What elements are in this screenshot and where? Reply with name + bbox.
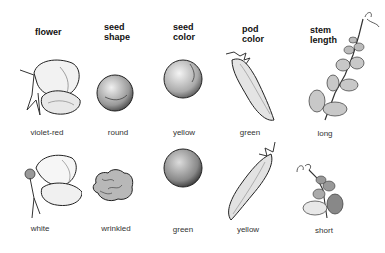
header-flower: flower (35, 27, 62, 37)
seed-round-illustration (95, 73, 135, 113)
stem-short-illustration (295, 160, 350, 220)
header-line: seed (173, 22, 195, 32)
header-line: color (242, 34, 264, 44)
flower-white-illustration (12, 150, 82, 220)
seed-wrinkled-illustration (90, 165, 136, 205)
label-seed-round: round (83, 128, 153, 137)
stem-long-illustration (305, 5, 380, 125)
label-seed-yellow: yellow (149, 128, 219, 137)
flower-violet-red-illustration (12, 55, 82, 120)
label-seed-wrinkled: wrinkled (81, 224, 151, 233)
pod-green-illustration (222, 50, 282, 125)
header-line: pod (242, 24, 264, 34)
label-pod-yellow: yellow (213, 225, 283, 234)
header-line: flower (35, 27, 62, 37)
label-pod-green: green (215, 128, 285, 137)
label-flower-violet-red: violet-red (12, 128, 82, 137)
header-line: shape (104, 32, 130, 42)
label-flower-white: white (5, 224, 75, 233)
header-pod-color: pod color (242, 24, 264, 44)
header-seed-shape: seed shape (104, 22, 130, 42)
header-seed-color: seed color (173, 22, 195, 42)
label-stem-short: short (289, 226, 359, 235)
seed-yellow-illustration (162, 58, 204, 100)
header-line: color (173, 32, 195, 42)
header-line: seed (104, 22, 130, 32)
label-seed-green: green (148, 225, 218, 234)
label-stem-long: long (290, 129, 360, 138)
seed-green-illustration (162, 147, 204, 189)
pod-yellow-illustration (225, 140, 280, 222)
